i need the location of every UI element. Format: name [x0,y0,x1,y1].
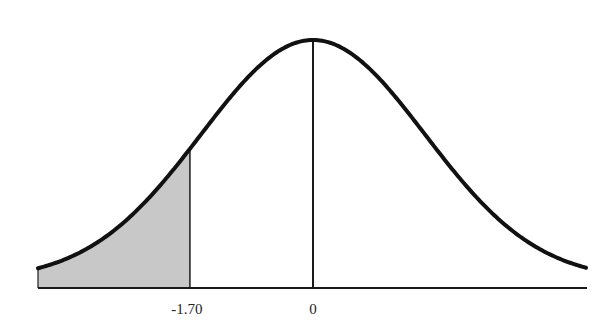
normal-distribution-chart: -1.70 0 [0,0,615,329]
shaded-left-tail-area [38,149,190,288]
tick-label-cutoff: -1.70 [171,301,202,317]
tick-label-mean: 0 [309,301,317,317]
